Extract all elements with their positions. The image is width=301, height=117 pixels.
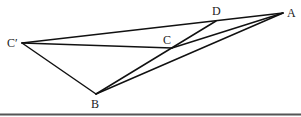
segment-c-a: [172, 13, 283, 48]
segment-cprime-b: [22, 43, 96, 94]
label-c-prime: C′: [7, 36, 18, 50]
segment-b-a: [96, 13, 283, 94]
label-c: C: [163, 33, 171, 47]
label-d: D: [212, 4, 221, 18]
label-a: A: [287, 6, 296, 20]
segment-cprime-a: [22, 13, 283, 43]
label-b: B: [91, 97, 99, 111]
segment-cprime-c: [22, 43, 172, 48]
geometry-diagram: A D C C′ B: [0, 0, 301, 117]
